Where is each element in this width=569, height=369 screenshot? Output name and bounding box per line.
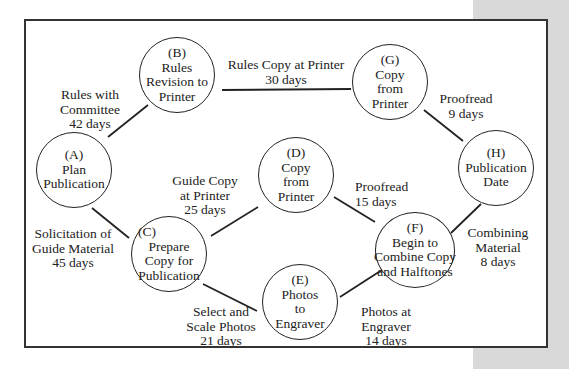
node-c-line2: Copy for — [145, 254, 193, 269]
label-a-c-duration: 45 days — [32, 256, 114, 271]
label-c-d: Guide Copy at Printer 25 days — [172, 174, 238, 218]
label-e-f-line2: Engraver — [361, 320, 411, 335]
node-a-line2: Publication — [43, 177, 105, 192]
label-a-c: Solicitation of Guide Material 45 days — [32, 227, 114, 271]
node-h-line1: Publication — [465, 161, 527, 176]
node-f-line3: and Halftones — [377, 265, 452, 280]
label-a-c-line1: Solicitation of — [32, 227, 114, 242]
label-b-g-line1: Rules Copy at Printer — [228, 58, 345, 73]
node-e-line3: Engraver — [275, 317, 324, 332]
label-c-d-duration: 25 days — [172, 203, 238, 218]
node-b-line1: Rules — [162, 61, 193, 76]
label-a-c-line2: Guide Material — [32, 242, 114, 257]
node-g-line1: Copy — [375, 68, 404, 83]
node-e-photos-to-engraver: (E) Photos to Engraver — [262, 264, 338, 340]
node-g-copy-from-printer: (G) Copy from Printer — [352, 44, 428, 120]
label-d-f-duration: 15 days — [355, 195, 408, 210]
node-d-copy-from-printer: (D) Copy from Printer — [258, 137, 334, 213]
label-a-b-duration: 42 days — [60, 117, 120, 132]
label-c-e-line2: Scale Photos — [186, 320, 255, 335]
node-h-id: (H) — [487, 146, 506, 161]
node-g-id: (G) — [381, 53, 400, 68]
label-b-g: Rules Copy at Printer 30 days — [228, 58, 345, 87]
node-c-id: (C) — [138, 225, 156, 240]
node-a-id: (A) — [65, 148, 84, 163]
node-b-line3: Printer — [159, 90, 196, 105]
label-g-h: Proofread 9 days — [439, 92, 492, 121]
node-c-line3: Publication — [138, 269, 200, 284]
node-g-line2: from — [377, 82, 403, 97]
label-g-h-line1: Proofread — [439, 92, 492, 107]
node-b-line2: Revision to — [146, 75, 208, 90]
node-e-id: (E) — [291, 273, 308, 288]
label-e-f: Photos at Engraver 14 days — [361, 305, 411, 349]
label-e-f-duration: 14 days — [361, 334, 411, 349]
node-c-prepare-copy: (C) Prepare Copy for Publication — [131, 216, 207, 292]
label-d-f: Proofread 15 days — [355, 180, 408, 209]
node-b-rules-revision: (B) Rules Revision to Printer — [139, 37, 215, 113]
node-h-line2: Date — [483, 175, 508, 190]
node-c-line1: Prepare — [148, 240, 189, 255]
label-f-h: Combining Material 8 days — [468, 226, 529, 270]
label-b-g-duration: 30 days — [228, 73, 345, 88]
label-g-h-duration: 9 days — [439, 107, 492, 122]
node-f-line2: Combine Copy — [374, 250, 456, 265]
label-f-h-line1: Combining — [468, 226, 529, 241]
node-f-line1: Begin to — [392, 236, 438, 251]
node-e-line2: to — [295, 302, 306, 317]
node-d-id: (D) — [287, 146, 306, 161]
label-d-f-line1: Proofread — [355, 180, 408, 195]
label-e-f-line1: Photos at — [361, 305, 411, 320]
label-a-b: Rules with Committee 42 days — [60, 88, 120, 132]
label-f-h-line2: Material — [468, 241, 529, 256]
label-c-d-line2: at Printer — [172, 189, 238, 204]
label-c-e-line1: Select and — [186, 305, 255, 320]
node-d-line1: Copy — [281, 161, 310, 176]
label-c-d-line1: Guide Copy — [172, 174, 238, 189]
label-a-b-line1: Rules with — [60, 88, 120, 103]
node-b-id: (B) — [168, 46, 186, 61]
label-c-e-duration: 21 days — [186, 334, 255, 349]
label-f-h-duration: 8 days — [468, 255, 529, 270]
node-f-id: (F) — [407, 221, 424, 236]
label-c-e: Select and Scale Photos 21 days — [186, 305, 255, 349]
node-g-line3: Printer — [372, 97, 409, 112]
node-a-line1: Plan — [62, 163, 86, 178]
label-a-b-line2: Committee — [60, 103, 120, 118]
node-d-line2: from — [283, 175, 309, 190]
edge-b-g — [222, 89, 351, 90]
node-f-combine-copy: (F) Begin to Combine Copy and Halftones — [375, 212, 455, 288]
node-e-line1: Photos — [282, 288, 319, 303]
node-d-line3: Printer — [278, 190, 315, 205]
node-h-publication-date: (H) Publication Date — [458, 130, 534, 206]
node-a-plan-publication: (A) Plan Publication — [36, 132, 112, 208]
